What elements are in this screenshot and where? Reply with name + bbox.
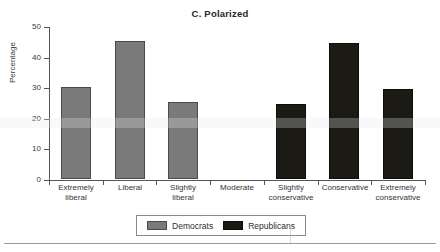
legend-label-republicans: Republicans: [248, 221, 295, 231]
figure: C. Polarized Percentage 01020304050 Extr…: [0, 0, 440, 252]
y-tick-label-40: 40: [17, 54, 41, 62]
x-label-line: conservative: [258, 193, 324, 203]
scan-edge-artifact: [290, 228, 291, 244]
bar-liberal: [115, 41, 145, 179]
chart-legend: Democrats Republicans: [136, 215, 306, 236]
bar-conservative: [329, 43, 359, 179]
page-rule: [4, 243, 436, 244]
x-label-line: conservative: [365, 193, 431, 203]
y-tick-50: [44, 27, 49, 28]
x-label-extremely-conservative: Extremelyconservative: [365, 183, 431, 202]
legend-item-republicans: Republicans: [223, 221, 295, 231]
bar-extremely-liberal: [61, 87, 91, 179]
y-tick-10: [44, 149, 49, 150]
y-tick-label-30: 30: [17, 84, 41, 92]
y-axis-title: Percentage: [8, 42, 17, 83]
bar-slightly-liberal: [168, 102, 198, 179]
plot-area: Percentage 01020304050: [49, 27, 425, 180]
y-tick-20: [44, 119, 49, 120]
y-tick-label-50: 50: [17, 23, 41, 31]
y-tick-label-10: 10: [17, 145, 41, 153]
x-label-line: Extremely: [365, 183, 431, 193]
bar-slightly-conservative: [276, 104, 306, 179]
legend-swatch-democrats: [147, 221, 167, 230]
y-tick-label-20: 20: [17, 115, 41, 123]
y-tick-40: [44, 58, 49, 59]
bar-extremely-conservative: [383, 89, 413, 179]
chart-title: C. Polarized: [0, 8, 440, 19]
x-axis-line: [49, 180, 426, 181]
y-tick-label-0: 0: [17, 176, 41, 184]
legend-swatch-republicans: [223, 221, 243, 230]
x-axis-labels: ExtremelyliberalLiberalSlightlyliberalMo…: [49, 183, 426, 209]
legend-label-democrats: Democrats: [172, 221, 213, 231]
y-axis-line: [49, 27, 50, 181]
x-label-line: liberal: [150, 193, 216, 203]
x-label-line: liberal: [43, 193, 109, 203]
legend-item-democrats: Democrats: [147, 221, 213, 231]
y-tick-30: [44, 88, 49, 89]
